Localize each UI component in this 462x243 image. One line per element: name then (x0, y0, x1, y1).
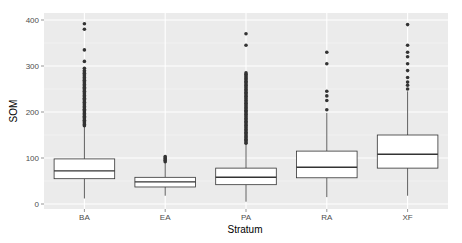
y-axis: 0100200300400 (26, 16, 44, 209)
outlier-point (406, 84, 410, 88)
outlier-point (406, 87, 410, 91)
outlier-point (406, 76, 410, 80)
outlier-point (83, 22, 87, 26)
outlier-point (163, 155, 167, 159)
outlier-point (406, 55, 410, 59)
x-tick-label: RA (321, 213, 333, 222)
x-tick-label: PA (241, 213, 252, 222)
y-tick-label: 0 (35, 200, 40, 209)
outlier-point (244, 32, 248, 36)
outlier-point (406, 23, 410, 27)
outlier-point (83, 48, 87, 52)
outlier-point (83, 69, 87, 73)
x-axis-label: Stratum (227, 224, 262, 235)
outlier-point (83, 60, 87, 64)
y-tick-label: 300 (26, 62, 40, 71)
outlier-point (325, 62, 329, 66)
y-tick-label: 400 (26, 16, 40, 25)
outlier-point (406, 80, 410, 84)
x-tick-label: EA (160, 213, 171, 222)
outlier-point (83, 27, 87, 31)
outlier-point (325, 94, 329, 98)
boxplot-chart: 0100200300400 BAEAPARAXF SOM Stratum (0, 0, 462, 243)
x-axis: BAEAPARAXF (79, 209, 413, 222)
outlier-point (325, 50, 329, 54)
y-tick-label: 200 (26, 108, 40, 117)
x-tick-label: BA (79, 213, 90, 222)
x-tick-label: XF (402, 213, 412, 222)
outlier-point (325, 99, 329, 103)
outlier-point (325, 108, 329, 112)
outlier-point (325, 90, 329, 94)
outlier-point (406, 50, 410, 54)
outlier-point (406, 44, 410, 48)
outlier-point (244, 44, 248, 48)
outlier-point (244, 71, 248, 75)
y-axis-label: SOM (8, 100, 19, 123)
outlier-point (406, 62, 410, 66)
y-tick-label: 100 (26, 154, 40, 163)
outlier-point (406, 69, 410, 73)
